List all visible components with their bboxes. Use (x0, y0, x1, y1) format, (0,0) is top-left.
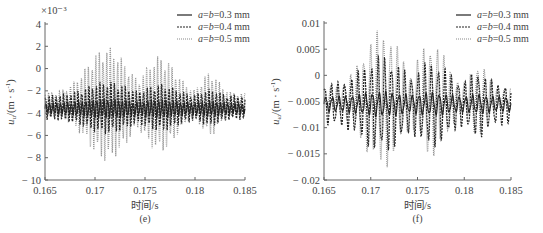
x-tick-label: 0.18 (455, 185, 473, 196)
legend-label: a=b=0.4 mm (198, 21, 250, 32)
y-tick-label: − 6 (27, 130, 41, 141)
x-tick-label: 0.175 (133, 185, 157, 196)
x-tick-label: 0.17 (86, 185, 104, 196)
y-tick-label: − 0.02 (293, 175, 320, 186)
y-tick-label: 0 (315, 70, 320, 81)
x-axis-title: 时间/s (404, 199, 431, 211)
y-tick-label: 4 (36, 19, 42, 30)
legend: a=b=0.3 mma=b=0.4 mma=b=0.5 mm (177, 9, 250, 44)
y-tick-label: − 0.005 (288, 96, 320, 107)
legend-value: =0.3 mm (493, 9, 529, 20)
y-title-close: ) (271, 78, 282, 82)
x-tick-label: 0.18 (186, 185, 204, 196)
panel-caption: (e) (139, 213, 150, 225)
legend-value: =0.3 mm (214, 9, 250, 20)
chart-panel-f: 0.010.0050− 0.005− 0.01− 0.015− 0.020.16… (271, 0, 543, 233)
legend-label: a=b=0.3 mm (477, 9, 529, 20)
y-tick-label: − 8 (27, 152, 41, 163)
y-tick-label: − 0.015 (288, 148, 320, 159)
y-tick-label: 2 (36, 41, 41, 52)
panel-caption: (f) (413, 213, 423, 225)
legend-value: =0.5 mm (493, 33, 529, 44)
y-tick-label: − 2 (27, 85, 41, 96)
chart-f-svg: 0.010.0050− 0.005− 0.01− 0.015− 0.020.16… (271, 0, 543, 233)
legend-label: a=b=0.5 mm (477, 33, 529, 44)
chart-panel-e: 420− 2− 4− 6− 8− 100.1650.170.1750.180.1… (0, 0, 271, 233)
legend-label: a=b=0.5 mm (198, 33, 250, 44)
y-title-unit: /(m · s (5, 89, 17, 116)
y-tick-label: 0 (36, 63, 41, 74)
y-tick-label: − 10 (22, 175, 41, 186)
legend-value: =0.4 mm (214, 21, 250, 32)
y-tick-label: 0.005 (296, 44, 320, 55)
y-tick-label: − 0.01 (293, 122, 320, 133)
x-tick-label: 0.165 (33, 185, 57, 196)
legend: a=b=0.3 mma=b=0.4 mma=b=0.5 mm (456, 9, 529, 44)
x-tick-label: 0.17 (362, 185, 380, 196)
legend-value: =0.4 mm (493, 21, 529, 32)
legend-value: =0.5 mm (214, 33, 250, 44)
y-axis-title: uω/(m · s-1) (271, 78, 283, 125)
y-title-close: ) (5, 79, 17, 83)
y-tick-label: 0.01 (302, 18, 320, 29)
chart-e-svg: 420− 2− 4− 6− 8− 100.1650.170.1750.180.1… (0, 0, 271, 233)
legend-label: a=b=0.3 mm (198, 9, 250, 20)
y-axis-title: uu/(m · s-1) (4, 79, 18, 125)
x-tick-label: 0.185 (233, 185, 257, 196)
y-title-unit: /(m · s (271, 88, 282, 115)
x-tick-label: 0.185 (499, 185, 523, 196)
y-multiplier-label: ×10⁻³ (41, 5, 67, 16)
x-tick-label: 0.175 (406, 185, 430, 196)
y-tick-label: − 4 (27, 108, 42, 119)
x-axis-title: 时间/s (131, 199, 158, 211)
x-tick-label: 0.165 (312, 185, 336, 196)
legend-label: a=b=0.4 mm (477, 21, 529, 32)
